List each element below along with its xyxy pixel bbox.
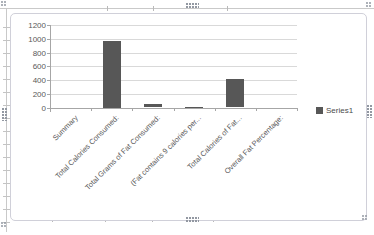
x-axis-tick [91,108,92,111]
y-axis-tick-label: 1000 [18,35,46,44]
legend-swatch-series1 [316,107,323,114]
legend[interactable]: Series1 [316,106,353,115]
bar-3[interactable] [144,104,162,107]
selection-handle-left-middle[interactable] [2,108,7,121]
gridline [50,80,297,81]
selection-handle-top-center[interactable] [186,3,199,8]
plot-area: 020040060080010001200SummaryTotal Calori… [0,0,374,235]
x-axis-category-label: (Fat contains 9 calories per... [129,114,203,188]
y-axis-tick-label: 1200 [18,21,46,30]
x-axis-tick [215,108,216,111]
legend-label-series1: Series1 [326,106,353,115]
selection-handle-bottom-center[interactable] [186,217,199,222]
x-axis-tick [256,108,257,111]
y-axis-tick-label: 400 [18,76,46,85]
bar-5[interactable] [226,79,244,107]
x-axis-category-label: Total Grams of Fat Consumed: [84,114,162,192]
gridline [50,66,297,67]
selection-handle-bottom-right[interactable] [362,215,368,221]
bar-2[interactable] [103,41,121,108]
x-axis-tick [132,108,133,111]
bar-4[interactable] [185,107,203,108]
selection-handle-bottom-left[interactable] [1,222,7,228]
gridline [50,53,297,54]
y-axis-tick-label: 0 [18,104,46,113]
y-axis-tick-label: 600 [18,62,46,71]
excel-worksheet-area: 020040060080010001200SummaryTotal Calori… [0,0,374,235]
y-axis-tick-label: 200 [18,90,46,99]
selection-handle-top-right[interactable] [366,2,372,8]
x-axis-category-label: Summary [51,114,79,142]
x-axis-tick [174,108,175,111]
y-axis-tick-label: 800 [18,49,46,58]
x-axis-tick [50,108,51,111]
y-axis-line [50,25,51,112]
x-axis-tick [297,108,298,111]
selection-handle-right-middle[interactable] [367,105,372,118]
selection-handle-top-left[interactable] [1,1,7,7]
gridline [50,25,297,26]
gridline [50,39,297,40]
gridline [50,94,297,95]
